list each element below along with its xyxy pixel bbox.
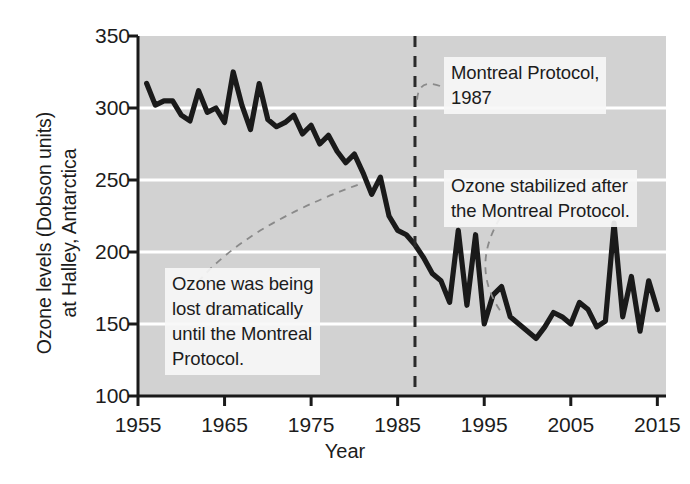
annotation-montreal-protocol: Montreal Protocol, 1987 [444, 57, 606, 114]
annotation-ozone-lost: Ozone was being lost dramatically until … [165, 268, 320, 375]
y-tick-label-200: 200 [78, 241, 130, 262]
ozone-chart-figure: Ozone levels (Dobson units) at Halley, A… [0, 0, 690, 484]
x-tick-label-1995: 1995 [449, 414, 519, 435]
x-tick-label-1985: 1985 [363, 414, 433, 435]
y-tick-label-150: 150 [78, 313, 130, 334]
y-tick-label-100: 100 [78, 385, 130, 406]
x-tick-label-2015: 2015 [622, 414, 690, 435]
y-tick-label-250: 250 [78, 169, 130, 190]
x-tick-label-1955: 1955 [103, 414, 173, 435]
x-tick-label-1975: 1975 [276, 414, 346, 435]
y-tick-label-300: 300 [78, 97, 130, 118]
x-tick-label-2005: 2005 [536, 414, 606, 435]
x-tick-label-1965: 1965 [190, 414, 260, 435]
x-axis-title: Year [0, 440, 690, 463]
annotation-ozone-stabilized: Ozone stabilized after the Montreal Prot… [444, 170, 637, 227]
y-tick-label-350: 350 [78, 25, 130, 46]
y-axis-title: Ozone levels (Dobson units) at Halley, A… [32, 68, 82, 398]
y-tick-label-group: 350 300 250 200 150 100 [78, 0, 130, 484]
